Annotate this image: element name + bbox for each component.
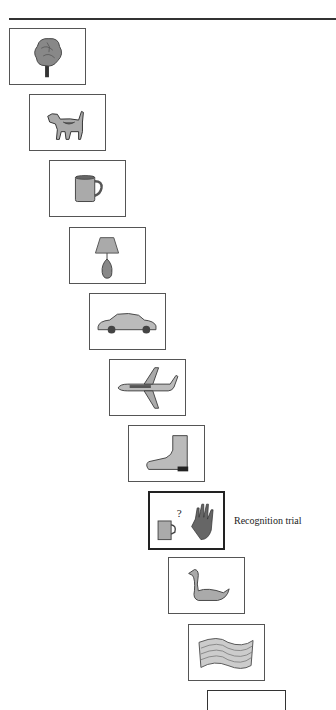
stimulus-card-lamp: [69, 227, 146, 284]
mug-icon: [50, 161, 125, 216]
stimulus-card-dog: [29, 94, 106, 151]
stimulus-card-boot: [128, 425, 205, 482]
mug-question-glove-icon: ?: [150, 493, 223, 548]
stimulus-card-scarf: [188, 624, 265, 681]
car-icon: [90, 294, 165, 349]
swan-icon: [169, 558, 244, 613]
stimulus-card-swan: [168, 557, 245, 614]
stimulus-card-recognition: ?: [148, 491, 225, 550]
stimulus-card-car: [89, 293, 166, 350]
stimulus-card-next: [207, 690, 286, 710]
stimulus-card-mug: [49, 160, 126, 217]
recognition-trial-label: Recognition trial: [234, 515, 302, 526]
boot-icon: [129, 426, 204, 481]
lamp-icon: [70, 228, 145, 283]
dog-icon: [30, 95, 105, 150]
stimulus-card-tree: [9, 28, 86, 85]
scarf-icon: [189, 625, 264, 680]
question-mark: ?: [177, 507, 182, 519]
top-rule: [9, 18, 336, 20]
airplane-icon: [110, 360, 185, 415]
stimulus-card-airplane: [109, 359, 186, 416]
tree-icon: [10, 29, 85, 84]
